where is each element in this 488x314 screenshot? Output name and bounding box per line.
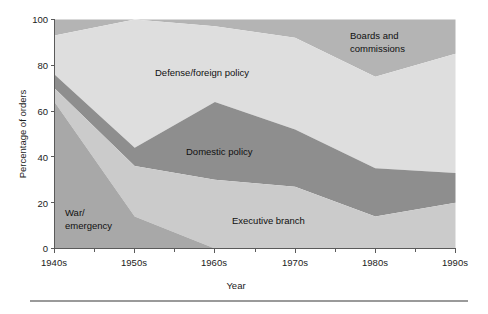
- y-tick-label-80: 80: [37, 60, 48, 71]
- domestic-policy-label: Domestic policy: [186, 146, 253, 157]
- x-tick-label-1960s: 1960s: [201, 257, 227, 268]
- executive-branch-label: Executive branch: [232, 215, 305, 226]
- defense-foreign-policy-label: Defense/foreign policy: [155, 67, 249, 78]
- y-tick-label-40: 40: [37, 152, 48, 163]
- y-tick-label-0: 0: [43, 243, 48, 254]
- x-tick-label-1940s: 1940s: [41, 257, 67, 268]
- y-axis-title: Percentage of orders: [17, 89, 28, 178]
- war-emergency-label-line1: War/: [65, 207, 85, 218]
- boards-and-commissions-label-line1: Boards and: [350, 30, 399, 41]
- stacked-area-chart: 100 80 60 40 20 0 1940s 1950s 1960s 1970…: [0, 0, 488, 314]
- y-tick-label-100: 100: [32, 14, 48, 25]
- boards-and-commissions-label-line2: commissions: [350, 43, 405, 54]
- x-tick-label-1950s: 1950s: [121, 257, 147, 268]
- y-tick-label-60: 60: [37, 106, 48, 117]
- x-axis-title: Year: [226, 280, 245, 291]
- war-emergency-label-line2: emergency: [65, 220, 112, 231]
- x-tick-label-1970s: 1970s: [282, 257, 308, 268]
- x-tick-label-1980s: 1980s: [362, 257, 388, 268]
- x-tick-label-1990s: 1990s: [442, 257, 468, 268]
- y-tick-label-20: 20: [37, 198, 48, 209]
